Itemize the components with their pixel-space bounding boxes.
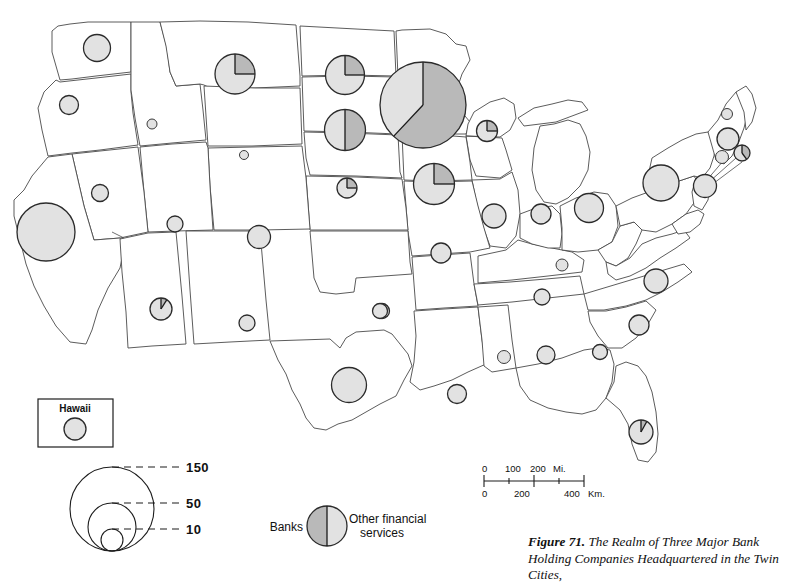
figure-number: Figure 71. [528,534,585,549]
scale-km-unit: Km. [588,488,605,499]
figure-caption: Figure 71. The Realm of Three Major Bank… [528,534,790,584]
scale-km-0: 0 [482,488,487,499]
scale-km-400: 400 [564,488,580,499]
scale-miles-100: 100 [505,463,521,474]
scale-miles-unit: Mi. [553,463,566,474]
scale-km-200: 200 [514,488,530,499]
scale-miles-0: 0 [482,463,487,474]
scale-miles-200: 200 [530,463,546,474]
